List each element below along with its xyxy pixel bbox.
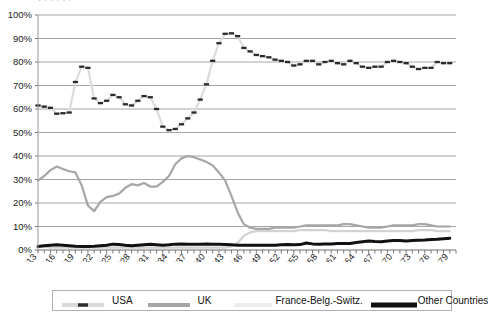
y-tick-label: 20% bbox=[13, 197, 33, 208]
x-tick-label: 1916 bbox=[37, 252, 58, 262]
y-tick-label: 100% bbox=[8, 9, 33, 20]
x-tick-label: 1955 bbox=[280, 252, 301, 262]
series-line-uk bbox=[38, 156, 450, 229]
chart-svg: 100%90%80%70%60%50%40%30%20%10%0% 191319… bbox=[0, 0, 461, 262]
legend-label-uk: UK bbox=[198, 296, 212, 306]
x-tick-label: 1964 bbox=[336, 252, 357, 262]
x-tick-label: 1934 bbox=[149, 252, 170, 262]
x-tick-label: 1922 bbox=[74, 252, 95, 262]
legend-label-usa: USA bbox=[112, 296, 133, 306]
legend-label-france-belg-switz: France-Belg.-Switz. bbox=[275, 296, 362, 306]
legend-item-france-belg-switz: France-Belg.-Switz. bbox=[233, 291, 362, 310]
other-thick-swatch bbox=[370, 296, 418, 306]
usa-dashed-swatch bbox=[61, 296, 105, 306]
x-tick-label: 1961 bbox=[317, 252, 338, 262]
plot-area: 100%90%80%70%60%50%40%30%20%10%0% 191319… bbox=[0, 0, 461, 262]
y-tick-label: 80% bbox=[13, 56, 33, 67]
y-tick-label: 50% bbox=[13, 127, 33, 138]
x-tick-label: 1931 bbox=[130, 252, 151, 262]
x-tick-label: 1919 bbox=[55, 252, 76, 262]
x-tick-label: 1973 bbox=[392, 252, 413, 262]
x-tick-label: 1967 bbox=[355, 252, 376, 262]
x-tick-label: 1940 bbox=[186, 252, 207, 262]
x-tick-label: 1958 bbox=[299, 252, 320, 262]
x-tick-label: 1943 bbox=[205, 252, 226, 262]
legend-item-other-countries: Other Countries bbox=[370, 291, 488, 310]
y-tick-label: 90% bbox=[13, 33, 33, 44]
y-tick-label: 40% bbox=[13, 150, 33, 161]
y-tick-label: 10% bbox=[13, 221, 33, 232]
y-tick-label: 70% bbox=[13, 80, 33, 91]
x-tick-label: 1937 bbox=[168, 252, 189, 262]
x-tick-label: 1952 bbox=[261, 252, 282, 262]
gridlines bbox=[38, 15, 456, 227]
x-tick-label: 1928 bbox=[112, 252, 133, 262]
x-tick-label: 1976 bbox=[411, 252, 432, 262]
legend-item-usa: USA bbox=[61, 291, 133, 310]
x-tick-label: 1946 bbox=[224, 252, 245, 262]
x-tick-label: 1925 bbox=[93, 252, 114, 262]
data-series bbox=[35, 33, 452, 247]
x-tick-label: 1970 bbox=[374, 252, 395, 262]
x-tick-label: 1979 bbox=[430, 252, 451, 262]
chart-legend: USA UK France-Belg.-Switz. bbox=[52, 290, 452, 311]
uk-solid-swatch bbox=[147, 296, 191, 306]
y-tick-label: 60% bbox=[13, 103, 33, 114]
y-axis-labels: 100%90%80%70%60%50%40%30%20%10%0% bbox=[8, 9, 33, 255]
legend-item-uk: UK bbox=[147, 291, 212, 310]
fbs-solid-swatch bbox=[233, 296, 273, 306]
legend-label-other-countries: Other Countries bbox=[418, 296, 488, 306]
x-axis-minor-ticks bbox=[38, 250, 456, 254]
y-tick-label: 30% bbox=[13, 174, 33, 185]
x-tick-label: 1949 bbox=[243, 252, 264, 262]
series-line-other-countries bbox=[38, 238, 450, 246]
x-axis-labels: 1913191619191922192519281931193419371940… bbox=[18, 252, 450, 262]
series-line-usa bbox=[35, 33, 452, 130]
